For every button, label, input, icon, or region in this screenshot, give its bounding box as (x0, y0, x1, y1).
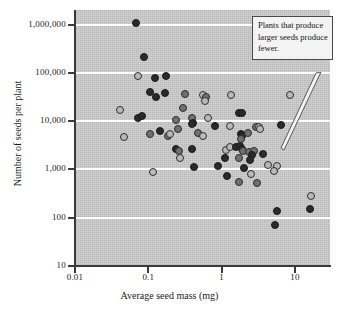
data-point (237, 135, 245, 143)
y-tick-mark (68, 217, 75, 219)
data-point (156, 127, 164, 135)
data-point (120, 133, 128, 141)
y-tick-label: 1,000 (45, 163, 66, 173)
data-point (134, 72, 142, 80)
data-point (223, 172, 231, 180)
y-tick-label: 100,000 (35, 67, 66, 77)
data-point (166, 130, 174, 138)
y-tick-label: 100 (52, 212, 66, 222)
data-point (221, 154, 229, 162)
data-point (174, 125, 182, 133)
data-point (151, 74, 159, 82)
data-point (253, 179, 261, 187)
data-point (188, 120, 196, 128)
data-point (179, 104, 187, 112)
data-point (132, 19, 140, 27)
data-point (211, 122, 219, 130)
x-axis-title: Average seed mass (mg) (0, 290, 339, 301)
data-point (188, 145, 196, 153)
x-tick-label: 0.1 (123, 272, 173, 282)
y-tick-label: 1,000,000 (28, 19, 66, 29)
annotation-pointer-icon (275, 72, 325, 154)
data-point (256, 125, 264, 133)
annotation-callout: Plants that produce larger seeds produce… (252, 16, 333, 60)
x-tick-label: 0.01 (50, 272, 100, 282)
data-point (246, 156, 254, 164)
data-point (152, 93, 160, 101)
data-point (271, 221, 279, 229)
data-point (306, 205, 314, 213)
data-point (227, 91, 235, 99)
y-tick-mark (68, 120, 75, 122)
y-tick-mark (68, 24, 75, 26)
data-point (149, 168, 157, 176)
data-point (116, 106, 124, 114)
x-tick-label: 1 (197, 272, 247, 282)
scatter-plot-figure: 101001,00010,000100,0001,000,000 0.010.1… (0, 0, 339, 312)
data-point (247, 170, 255, 178)
data-point (270, 167, 278, 175)
y-tick-mark (68, 168, 75, 170)
data-point (235, 154, 243, 162)
data-point (162, 72, 170, 80)
data-point (161, 89, 169, 97)
y-axis-title: Number of seeds per plant (12, 49, 23, 219)
y-axis-line (74, 10, 76, 267)
data-point (244, 129, 252, 137)
data-point (140, 53, 148, 61)
gridline (75, 168, 330, 170)
y-tick-mark (68, 72, 75, 74)
y-tick-label: 10 (57, 260, 66, 270)
x-axis-line (75, 265, 331, 267)
gridline (75, 217, 330, 219)
data-point (238, 109, 246, 117)
data-point (259, 150, 267, 158)
data-point (181, 90, 189, 98)
data-point (199, 132, 207, 140)
x-tick-label: 10 (270, 272, 320, 282)
y-tick-label: 10,000 (40, 115, 66, 125)
data-point (226, 122, 234, 130)
data-point (201, 97, 209, 105)
data-point (172, 116, 180, 124)
data-point (307, 192, 315, 200)
data-point (176, 154, 184, 162)
data-point (235, 178, 243, 186)
data-point (273, 207, 281, 215)
data-point (146, 130, 154, 138)
